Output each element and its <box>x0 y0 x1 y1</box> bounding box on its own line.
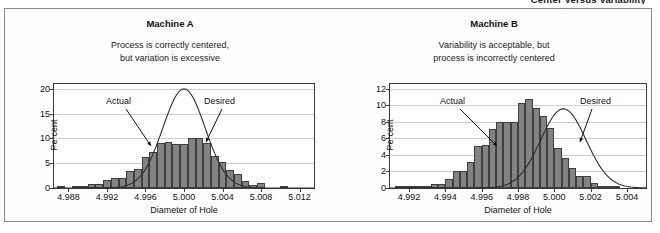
page-heading: Center Versus Variability <box>0 0 660 4</box>
annotation-leader-line <box>206 109 222 142</box>
annotation-arrow-head <box>147 142 151 146</box>
annotation-leader-line <box>460 109 497 146</box>
chart-a-plot-area: Percent Diameter of Hole 051015204.9884.… <box>53 83 315 189</box>
y-tick-label: 15 <box>40 109 50 118</box>
figure-root: Center Versus Variability Machine A Proc… <box>0 0 660 233</box>
x-tick-label: 5.000 <box>173 193 196 202</box>
x-tick-label: 4.992 <box>398 193 421 202</box>
chart-b-subtitle: Variability is acceptable, but process i… <box>335 39 653 64</box>
y-tick-label: 10 <box>376 101 386 110</box>
desired-normal-curve <box>390 109 646 188</box>
chart-a-x-axis-label: Diameter of Hole <box>54 205 314 215</box>
chart-a-title: Machine A <box>5 18 335 29</box>
x-tick-label: 4.996 <box>470 193 493 202</box>
x-tick-label: 4.988 <box>57 193 80 202</box>
annotation-label-actual: Actual <box>106 96 131 106</box>
y-tick-mark <box>386 188 390 189</box>
x-tick-label: 5.004 <box>211 193 234 202</box>
annotation-arrow-head <box>580 138 584 142</box>
x-tick-label: 4.994 <box>434 193 457 202</box>
y-tick-mark <box>50 188 54 189</box>
y-tick-label: 4 <box>381 150 386 159</box>
x-tick-label: 5.000 <box>543 193 566 202</box>
desired-normal-curve <box>54 89 314 188</box>
x-tick-label: 4.992 <box>96 193 119 202</box>
chart-a-subtitle-line1: Process is correctly centered, <box>5 39 335 52</box>
y-tick-label: 2 <box>381 167 386 176</box>
x-tick-label: 4.996 <box>134 193 157 202</box>
y-tick-label: 20 <box>40 84 50 93</box>
annotation-label-desired: Desired <box>580 96 611 106</box>
chart-b-x-axis-label: Diameter of Hole <box>390 205 646 215</box>
chart-b-subtitle-line1: Variability is acceptable, but <box>335 39 653 52</box>
annotation-label-desired: Desired <box>204 96 235 106</box>
y-tick-label: 10 <box>40 134 50 143</box>
x-tick-label: 4.998 <box>507 193 530 202</box>
chart-b-subtitle-line2: process is incorrectly centered <box>335 52 653 65</box>
x-tick-label: 5.012 <box>288 193 311 202</box>
curve-overlay <box>54 84 314 188</box>
chart-b-title: Machine B <box>335 18 653 29</box>
x-tick-label: 5.002 <box>579 193 602 202</box>
y-tick-label: 0 <box>45 184 50 193</box>
chart-a-subtitle-line2: but variation is excessive <box>5 52 335 65</box>
chart-machine-b: Machine B Variability is acceptable, but… <box>335 9 653 223</box>
figure-panel: Machine A Process is correctly centered,… <box>4 8 652 222</box>
chart-machine-a: Machine A Process is correctly centered,… <box>5 9 335 223</box>
annotation-label-actual: Actual <box>440 96 465 106</box>
y-tick-label: 8 <box>381 117 386 126</box>
y-tick-label: 0 <box>381 184 386 193</box>
y-tick-label: 6 <box>381 134 386 143</box>
annotation-leader-line <box>580 109 592 142</box>
chart-a-subtitle: Process is correctly centered, but varia… <box>5 39 335 64</box>
x-tick-label: 5.008 <box>250 193 273 202</box>
annotation-leader-line <box>126 109 151 146</box>
chart-b-plot-area: Percent Diameter of Hole 0246810124.9924… <box>389 83 647 189</box>
y-tick-label: 5 <box>45 159 50 168</box>
y-tick-label: 12 <box>376 84 386 93</box>
x-tick-label: 5.004 <box>616 193 639 202</box>
